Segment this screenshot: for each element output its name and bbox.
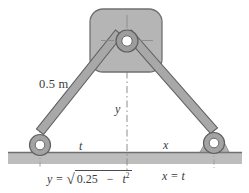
link-length-label: 0.5 m <box>39 78 68 91</box>
right-link <box>125 30 218 134</box>
radical-sign: √ <box>66 172 74 187</box>
y-coordinate-label: y <box>115 103 120 115</box>
radicand: 0.25 − t2 <box>75 170 132 185</box>
right-pivot-hole <box>209 138 219 148</box>
equation-x: x = t <box>162 170 185 182</box>
t-coordinate-label: t <box>79 140 82 152</box>
x-coordinate-label: x <box>163 139 168 151</box>
hub-pin-hole <box>122 36 132 46</box>
hub-pin <box>116 30 138 52</box>
linkage-diagram <box>0 0 249 193</box>
equation-y-prefix: y = <box>47 173 63 185</box>
left-pivot <box>30 135 51 156</box>
radicand-minus-sign: − <box>107 172 114 186</box>
right-link-bar <box>125 30 218 134</box>
right-pivot <box>204 133 225 154</box>
radicand-constant: 0.25 <box>77 172 98 186</box>
left-pivot-hole <box>35 140 45 150</box>
equation-y: y = √ 0.25 − t2 <box>47 170 132 186</box>
radicand-exponent: 2 <box>126 171 130 180</box>
